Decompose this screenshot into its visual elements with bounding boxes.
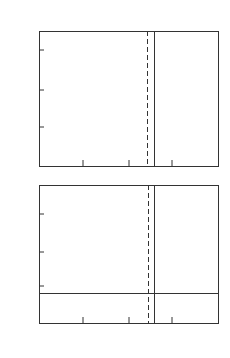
x-axis-ticks (83, 160, 172, 166)
hip-flexion-extension-chart (39, 185, 219, 324)
plot-frame (40, 186, 219, 324)
gait-charts (0, 0, 230, 358)
plot-frame (40, 32, 219, 167)
x-axis (83, 317, 172, 323)
pelvic-tilt-chart (39, 31, 219, 167)
